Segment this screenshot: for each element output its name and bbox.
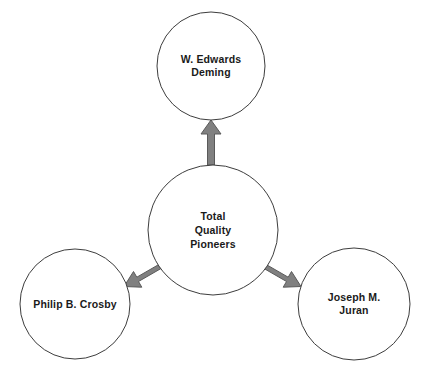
node-circle-crosby[interactable]: [20, 249, 130, 359]
node-circle-juran[interactable]: [298, 248, 410, 360]
node-circle-deming[interactable]: [157, 12, 265, 120]
node-circle-total-quality-pioneers[interactable]: [148, 165, 278, 295]
arrow-to-deming: [201, 120, 221, 165]
diagram-canvas: W. Edwards Deming Total Quality Pioneers…: [0, 0, 427, 373]
diagram-graphics: [0, 0, 427, 373]
